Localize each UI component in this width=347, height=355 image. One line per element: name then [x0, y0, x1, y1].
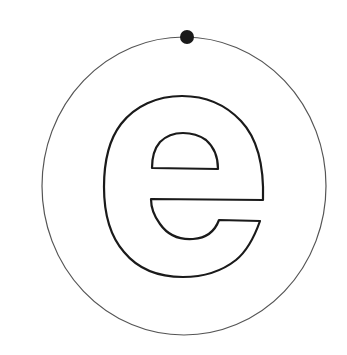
diagram-svg: [0, 0, 347, 355]
diagram-canvas: Letter e within a circle with a point on…: [0, 0, 347, 355]
letter-e-outer-contour: [104, 96, 263, 277]
outer-circle: [42, 37, 326, 335]
point-on-circle-dot: [180, 30, 194, 44]
letter-e-inner-counter: [152, 133, 218, 169]
letter-e-outline: [104, 96, 263, 277]
